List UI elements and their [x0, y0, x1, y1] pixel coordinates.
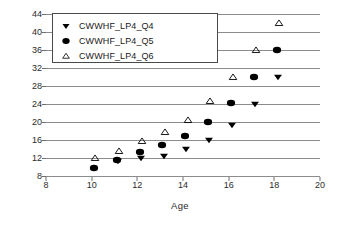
- data-point: [226, 98, 235, 107]
- y-axis-tick-label: 24: [32, 100, 42, 109]
- data-point: [89, 164, 98, 173]
- data-point: [228, 120, 237, 129]
- data-point: [181, 131, 190, 140]
- x-axis-labels: 8101214161820: [46, 181, 320, 195]
- y-axis-tick-label: 28: [32, 82, 42, 91]
- legend-item-label: CWWHF_LP4_Q6: [79, 51, 154, 61]
- scatter-chart: 8121620242832364044 8101214161820 Age CW…: [0, 0, 360, 230]
- data-point: [250, 100, 259, 109]
- legend-marker-down-triangle-icon: [53, 22, 79, 30]
- data-point: [274, 19, 283, 28]
- legend-item[interactable]: CWWHF_LP4_Q6: [53, 49, 217, 63]
- legend-item[interactable]: CWWHF_LP4_Q5: [53, 34, 217, 48]
- x-axis-tick-label: 8: [43, 181, 48, 190]
- x-axis-tick-label: 10: [87, 181, 97, 190]
- legend-marker-circle-icon: [53, 37, 79, 45]
- data-point: [205, 136, 214, 145]
- x-axis-tick-label: 16: [224, 181, 234, 190]
- data-point: [115, 146, 124, 155]
- y-axis-tick-label: 20: [32, 118, 42, 127]
- gridline: [46, 86, 320, 87]
- x-axis-tick: [183, 177, 184, 181]
- data-point: [206, 96, 215, 105]
- x-axis-tick: [137, 177, 138, 181]
- legend-marker-up-triangle-icon: [53, 52, 79, 60]
- legend-item-label: CWWHF_LP4_Q4: [79, 21, 154, 31]
- gridline: [46, 68, 320, 69]
- gridline: [46, 104, 320, 105]
- data-point: [249, 73, 258, 82]
- data-point: [159, 151, 168, 160]
- data-point: [183, 115, 192, 124]
- data-point: [91, 153, 100, 162]
- data-point: [229, 73, 238, 82]
- y-axis-tick-label: 12: [32, 154, 42, 163]
- y-axis-tick-label: 36: [32, 46, 42, 55]
- data-point: [272, 46, 281, 55]
- x-axis-tick-label: 20: [315, 181, 325, 190]
- x-axis-tick: [320, 177, 321, 181]
- x-axis-tick: [91, 177, 92, 181]
- data-point: [112, 156, 121, 165]
- x-axis-tick: [228, 177, 229, 181]
- data-point: [204, 118, 213, 127]
- data-point: [158, 140, 167, 149]
- gridline: [46, 158, 320, 159]
- chart-legend: CWWHF_LP4_Q4 CWWHF_LP4_Q5 CWWHF_LP4_Q6: [52, 13, 218, 63]
- x-axis-tick-label: 14: [178, 181, 188, 190]
- data-point: [137, 137, 146, 146]
- y-axis-tick-label: 16: [32, 136, 42, 145]
- y-axis-labels: 8121620242832364044: [0, 14, 42, 176]
- legend-item-label: CWWHF_LP4_Q5: [79, 36, 154, 46]
- y-axis-tick-label: 32: [32, 64, 42, 73]
- y-axis-tick-label: 40: [32, 28, 42, 37]
- x-axis-tick-label: 12: [132, 181, 142, 190]
- data-point: [182, 145, 191, 154]
- data-point: [273, 73, 282, 82]
- x-axis-tick: [46, 177, 47, 181]
- x-axis-tick-label: 18: [269, 181, 279, 190]
- data-point: [160, 127, 169, 136]
- x-axis-title: Age: [0, 200, 360, 211]
- data-point: [252, 46, 261, 55]
- x-axis-tick: [274, 177, 275, 181]
- legend-item[interactable]: CWWHF_LP4_Q4: [53, 19, 217, 33]
- y-axis-tick-label: 44: [32, 10, 42, 19]
- data-point: [135, 148, 144, 157]
